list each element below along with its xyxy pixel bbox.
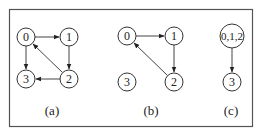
node-a-1-label: 1 [66,30,72,44]
edge-a-2-0 [33,44,63,73]
node-a-3-label: 3 [23,72,29,86]
edge-b-2-0 [134,43,168,76]
node-c-012-label: 0,1,2 [221,30,243,42]
panel-b: 0 1 2 3 (b) [118,27,183,118]
node-b-1-label: 1 [171,29,177,43]
node-b-0-label: 0 [124,29,130,43]
caption-b: (b) [143,103,158,118]
node-a-2-label: 2 [66,72,72,86]
graph-figure: 0 1 2 3 (a) 0 1 2 3 (b) 0,1,2 3 (c) [0,0,261,135]
node-c-3-label: 3 [229,75,235,89]
caption-a: (a) [45,103,59,118]
panel-a: 0 1 2 3 (a) [17,28,78,118]
node-b-3-label: 3 [124,75,130,89]
node-b-2-label: 2 [171,75,177,89]
node-a-0-label: 0 [23,30,29,44]
caption-c: (c) [224,103,238,118]
panel-c: 0,1,2 3 (c) [220,24,244,118]
